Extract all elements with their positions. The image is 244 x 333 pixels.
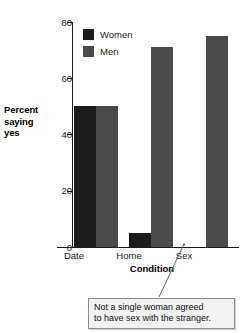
bar-men-date: [96, 106, 118, 247]
x-tick-label-home: Home: [103, 250, 155, 261]
y-axis-title-line-2: saying: [4, 116, 56, 128]
bar-men-sex: [206, 36, 228, 247]
y-axis-title-line-1: Percent: [4, 104, 56, 116]
annotation-line-1: Not a single woman agreed: [94, 302, 230, 313]
legend-label-men: Men: [100, 46, 118, 57]
x-tick-label-sex: Sex: [158, 250, 210, 261]
annotation-line-2: to have sex with the stranger.: [94, 313, 230, 324]
legend-label-women: Women: [100, 29, 133, 40]
x-axis-title: Condition: [72, 263, 232, 274]
bar-women-home: [129, 233, 151, 247]
chart-legend: Women Men: [83, 27, 161, 61]
bar-chart-figure: Percent saying yes 80 60 40 20 0 Date Ho…: [0, 0, 244, 333]
x-tick-label-date: Date: [48, 250, 100, 261]
bar-women-date: [74, 106, 96, 247]
annotation-callout: Not a single woman agreed to have sex wi…: [88, 298, 235, 329]
legend-item-women: Women: [83, 27, 161, 42]
bar-men-home: [151, 47, 173, 247]
legend-swatch-women-icon: [83, 29, 94, 40]
legend-swatch-men-icon: [83, 46, 94, 57]
legend-item-men: Men: [83, 44, 161, 59]
